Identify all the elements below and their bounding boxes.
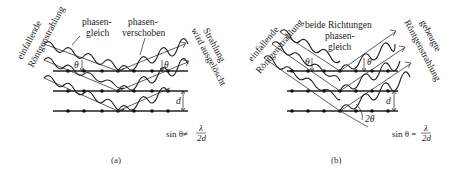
label-both-in-phase-line2: phasen- <box>325 31 355 41</box>
label-phase-shifted-line2: verschoben <box>122 28 166 38</box>
label-both-in-phase-line1: beide Richtungen <box>305 20 372 30</box>
formula-a: sin θ≠ λ 2d <box>166 123 207 143</box>
caption-a: (a) <box>111 155 121 165</box>
caption-b: (b) <box>331 155 342 165</box>
formula-b-lhs: sin θ = <box>392 129 416 139</box>
formula-b-numerator: λ <box>423 123 428 133</box>
spacing-d-b: d <box>386 96 391 106</box>
formula-a-lhs: sin θ≠ <box>166 129 188 139</box>
waves-a <box>44 36 189 111</box>
panel-b: einfallende Röntgenstrahlung beide Richt… <box>246 17 443 165</box>
formula-a-denominator: 2d <box>197 133 207 143</box>
theta-right-a: θ <box>164 60 169 70</box>
bragg-diffraction-figure: einfallende Röntgenstrahlung phasen- gle… <box>0 0 454 175</box>
double-angle-label: 2θ <box>365 114 375 124</box>
formula-b: sin θ = λ 2d <box>392 123 432 143</box>
theta-left-b: θ <box>305 57 310 67</box>
formula-b-denominator: 2d <box>422 133 432 143</box>
spacing-d-a: d <box>176 96 181 106</box>
label-phase-shifted-line1: phasen- <box>128 17 158 27</box>
label-in-phase-line2: gleich <box>86 28 109 38</box>
theta-left-a: θ <box>74 60 79 70</box>
panel-a: einfallende Röntgenstrahlung phasen- gle… <box>15 4 228 165</box>
label-both-in-phase-line3: gleich <box>328 42 351 52</box>
formula-a-numerator: λ <box>198 123 203 133</box>
label-in-phase-line1: phasen- <box>82 17 112 27</box>
theta-right-b: θ <box>367 57 372 67</box>
